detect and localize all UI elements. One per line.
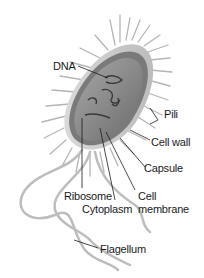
label-flagellum: Flagellum bbox=[100, 243, 146, 255]
label-dna: DNA bbox=[53, 60, 76, 72]
cell-body-shape bbox=[74, 58, 142, 141]
label-cell-membrane-line1: Cell bbox=[138, 190, 156, 202]
label-cytoplasm: Cytoplasm bbox=[82, 203, 132, 215]
label-capsule: Capsule bbox=[144, 162, 183, 174]
label-cell-wall: Cell wall bbox=[151, 136, 190, 148]
label-ribosome: Ribosome bbox=[64, 190, 112, 202]
label-cell-membrane-line2: membrane bbox=[138, 203, 189, 215]
label-pili: Pili bbox=[164, 108, 178, 120]
